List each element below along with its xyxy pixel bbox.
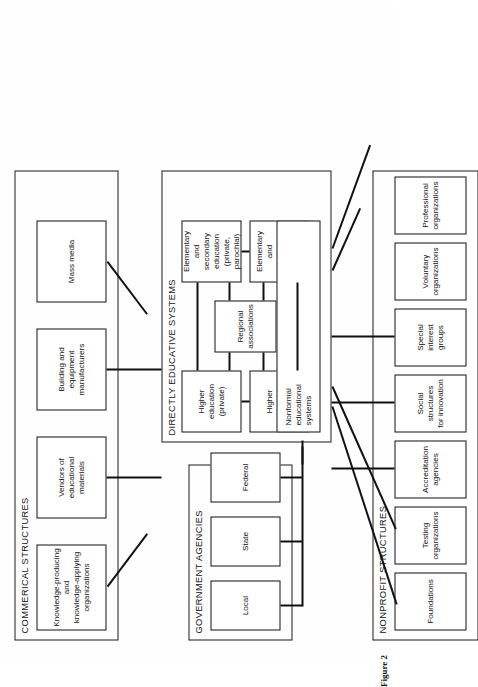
connector-hp-to-regional [228,352,230,370]
node-special-interest-groups: Special interest groups [394,308,466,366]
node-foundations: Foundations [394,572,466,630]
node-professional-organizations: Professional organizations [394,176,466,234]
connector-professional-organizations [331,144,370,248]
node-social-structures: Social structures for innovation [394,374,466,432]
figure-caption: Figure 2 [379,655,389,687]
node-regional-associations: Regional associations [214,300,276,352]
connector-regional-to-esp [228,282,230,300]
panel-government-agencies-title: GOVERNMENT AGENCIES [193,510,203,633]
panel-directly-educative-systems-title: DIRECTLY EDUCATIVE SYSTEMS [166,279,176,435]
connector-building-equipment [106,368,161,370]
connector-elem-private-to-public [241,250,249,252]
node-mass-media: Mass media [36,220,106,302]
node-federal: Federal [210,452,280,502]
node-vendors: Vendors of educational materials [36,436,106,518]
connector-social-structures [331,401,394,403]
connector-regional-to-espub [262,282,264,300]
connector-higher-private-to-public [241,400,249,402]
connector-accreditation-agencies [331,467,394,469]
node-local: Local [210,580,280,630]
connector-federal-vertical [280,476,302,478]
panel-commercial-structures-title: COMMERICAL STRUCTURES [19,497,29,633]
connector-hpub-to-espub [296,282,298,370]
connector-hp-to-esp-top [196,282,198,370]
connector-vendors [106,476,161,478]
node-accreditation-agencies: Accreditation agencies [394,440,466,498]
node-state: State [210,516,280,566]
node-building-equipment: Building and equipment manufacturers [36,328,106,410]
connector-government-to-educative [301,440,303,464]
node-higher-private: Higher education (private) [181,370,241,432]
connector-state-vertical [280,540,302,542]
connector-government-bus [301,446,303,606]
node-elem-sec-private: Elementary and secondary education (priv… [181,220,241,282]
connector-local-vertical [280,604,302,606]
node-voluntary-organizations: Voluntary organizations [394,242,466,300]
connector-special-interest-groups [331,335,394,337]
connector-hpub-to-regional [262,352,264,370]
node-testing-organizations: Testing organizations [394,506,466,564]
node-knowledge-orgs: Knowledge-producing and knowledge-applyi… [36,544,106,630]
